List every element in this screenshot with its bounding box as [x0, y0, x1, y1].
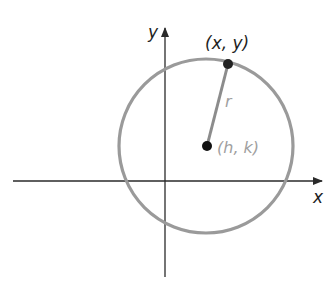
center-point: [202, 141, 212, 151]
center-label: (h, k): [217, 138, 259, 157]
x-axis-label: x: [312, 187, 324, 207]
circle-point: [223, 59, 233, 69]
y-axis-label: y: [147, 22, 159, 42]
circle-diagram: y x (x, y) r (h, k): [0, 0, 336, 285]
point-label: (x, y): [205, 33, 249, 53]
radius-label: r: [225, 92, 233, 111]
